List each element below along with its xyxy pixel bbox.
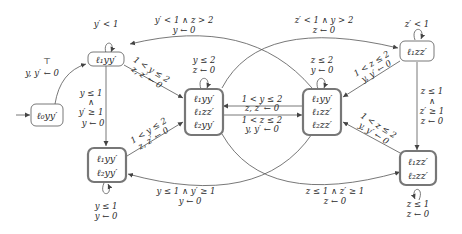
loop-n2 [103, 183, 110, 194]
edge-label: z ← 0 [312, 25, 336, 35]
node-label: ℓ₁zz′ [194, 106, 215, 117]
edge-label: y ← 0 [94, 211, 118, 221]
node-n3: ℓ₁yy′ ℓ₁zz′ ℓ₂yy′ [185, 89, 223, 135]
edge-label: y, y′ ← 0 [244, 124, 279, 134]
edge-label: z′ ≥ 1 [419, 106, 444, 116]
edge-label: y ← 0 [178, 196, 202, 206]
node-n5: ℓ₁zz′ [400, 41, 434, 61]
edge-label: y ≤ 1 [94, 201, 118, 211]
edge-label: y ≤ 1 ∧ y′ ≥ 1 [155, 186, 215, 196]
edge-n3-n6 [222, 134, 400, 185]
node-label: ℓ₂zz′ [312, 119, 333, 130]
edge-label: z ≤ 1 ∧ z′ ≥ 1 [305, 186, 364, 196]
edge-label: z ← 0 [192, 65, 216, 75]
edge-label: z ≤ 1 [420, 86, 443, 96]
edge-label: y′ ≥ 1 [78, 107, 104, 117]
node-label: ℓ₁zz′ [312, 106, 333, 117]
edge-label: y ← 0 [172, 25, 196, 35]
loop-n4 [317, 78, 325, 89]
node-label: ℓ₁yy′ [312, 93, 333, 104]
loop-n5 [414, 29, 422, 40]
node-label: ℓ₁yy′ [97, 153, 118, 164]
edge-n0-n1 [55, 64, 86, 104]
edge-label: z′ < 1 [404, 19, 429, 29]
node-label: ℓ₂yy′ [194, 119, 215, 130]
loop-n1 [105, 43, 112, 53]
edge-label: y′ < 1 [93, 19, 119, 29]
edge-label: z, z′ ← 0 [244, 103, 280, 113]
node-label: ℓ₁zz′ [407, 46, 428, 57]
edge-label: ∧ [88, 97, 94, 107]
edge-label: y ← 0 [81, 118, 105, 128]
edge-label: z′ < 1 ∧ y > 2 [294, 15, 354, 25]
edge-label: y ≤ 2 [192, 55, 216, 65]
edge-label: z ← 0 [406, 209, 430, 219]
edge-label: y, y′ ← 0 [24, 68, 59, 78]
node-label: ℓ₂yy′ [97, 167, 118, 178]
edge-label: y ← 0 [310, 65, 334, 75]
node-label: ℓ₁yy′ [96, 54, 117, 65]
edge-label: z ≤ 1 [406, 199, 429, 209]
node-n6: ℓ₁zz′ ℓ₂zz′ [400, 151, 436, 185]
edge-label: z ← 0 [420, 116, 444, 126]
node-label: ℓ₁zz′ [408, 156, 429, 167]
loop-n3 [200, 78, 208, 89]
node-label: ℓ₀yy′ [37, 110, 58, 121]
node-label: ℓ₁yy′ [194, 93, 215, 104]
node-n0: ℓ₀yy′ [31, 104, 63, 126]
edge-label: ∧ [429, 96, 435, 106]
edge-label: ⊤ [43, 56, 51, 66]
node-label: ℓ₂zz′ [408, 170, 429, 181]
edge-label: y′ < 1 ∧ z > 2 [154, 15, 214, 25]
node-n4: ℓ₁yy′ ℓ₁zz′ ℓ₂zz′ [303, 89, 341, 135]
edge-label: z ← 0 [323, 196, 347, 206]
node-n1: ℓ₁yy′ [88, 52, 124, 66]
automaton-diagram: ℓ₀yy′ ℓ₁yy′ ℓ₁yy′ ℓ₂yy′ ℓ₁yy′ ℓ₁zz′ ℓ₂yy… [0, 0, 462, 234]
node-n2: ℓ₁yy′ ℓ₂yy′ [88, 148, 126, 182]
edge-label: z ≤ 2 [310, 55, 333, 65]
